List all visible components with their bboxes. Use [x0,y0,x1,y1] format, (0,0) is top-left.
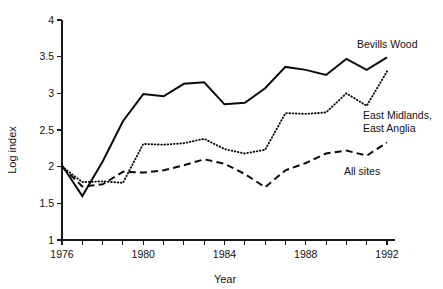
series-label-bevills-wood: Bevills Wood [357,38,418,50]
y-tick-label: 1 [48,234,54,246]
x-axis-ticks [62,240,387,245]
y-axis-ticks [57,20,62,240]
series-label-east-midlands-line1: East Midlands, [363,109,432,121]
y-tick-label: 1.5 [39,197,54,209]
line-chart: 11.522.533.54 19761980198419881992 Log i… [0,0,443,289]
x-axis-tick-labels: 19761980198419881992 [50,248,399,260]
x-tick-label: 1988 [294,248,318,260]
y-tick-label: 4 [48,14,54,26]
x-tick-label: 1980 [132,248,156,260]
series-label-all-sites: All sites [344,165,380,177]
y-tick-label: 3.5 [39,50,54,62]
series-line-east-midlands-east-anglia [62,71,387,182]
y-tick-label: 2 [48,160,54,172]
y-tick-label: 3 [48,87,54,99]
x-tick-label: 1976 [50,248,74,260]
x-tick-label: 1984 [213,248,237,260]
series-group [62,57,387,196]
y-tick-label: 2.5 [39,124,54,136]
y-axis-tick-labels: 11.522.533.54 [39,14,54,246]
chart-container: 11.522.533.54 19761980198419881992 Log i… [0,0,443,289]
y-axis-title: Log index [6,126,18,174]
x-tick-label: 1992 [375,248,399,260]
x-axis-title: Year [214,273,237,285]
series-label-east-midlands-line2: East Anglia [363,122,416,134]
series-line-bevills-wood [62,57,387,196]
